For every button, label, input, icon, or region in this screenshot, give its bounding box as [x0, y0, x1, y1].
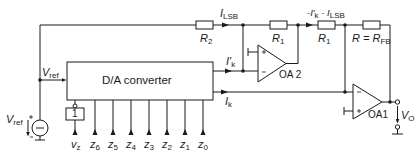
r1b-label: R1 — [318, 33, 330, 46]
output-terminal — [395, 100, 399, 104]
input-vz-label: vz — [71, 139, 81, 152]
resistor-rfb — [363, 21, 380, 29]
arrow-vz — [73, 129, 78, 135]
rfb-label: R = RFB — [352, 33, 391, 46]
ilsb-label: ILSB — [220, 8, 238, 21]
dac-label: D/A converter — [102, 74, 172, 86]
ik-label: Ik — [225, 96, 232, 109]
isum-label: -I′k - ILSB — [307, 8, 345, 20]
r1a-label: R1 — [272, 33, 284, 46]
arrow-ik — [221, 90, 228, 95]
input-z6-label: z6 — [90, 139, 100, 152]
circuit-diagram — [0, 0, 418, 160]
resistor-r1b — [318, 21, 335, 29]
oa2-label: OA 2 — [279, 70, 301, 80]
arrow-ilsb — [222, 23, 229, 28]
vref-node-label: Vref — [42, 67, 59, 80]
vref-source-label: Vref — [6, 114, 23, 127]
ik-prime-label: I′k — [226, 56, 235, 69]
arrow-sum — [306, 23, 313, 28]
wire-top-feedback — [40, 25, 196, 80]
input-z1-label: z1 — [180, 139, 190, 152]
oa1-label: OA1 — [368, 110, 388, 120]
resistor-r1a — [270, 21, 287, 29]
vo-label: VO — [401, 110, 415, 123]
r2-label: R2 — [200, 33, 212, 46]
input-z4-label: z4 — [126, 139, 136, 152]
wire-oa2-output — [286, 25, 298, 64]
input-z5-label: z5 — [108, 139, 118, 152]
input-z3-label: z3 — [144, 139, 154, 152]
input-z2-label: z2 — [162, 139, 172, 152]
inverter-label: 1 — [72, 109, 78, 119]
ground-terminal — [395, 125, 399, 129]
arrow-ik-prime — [225, 69, 232, 74]
resistor-r2 — [196, 21, 213, 29]
input-z0-label: z0 — [198, 139, 208, 152]
